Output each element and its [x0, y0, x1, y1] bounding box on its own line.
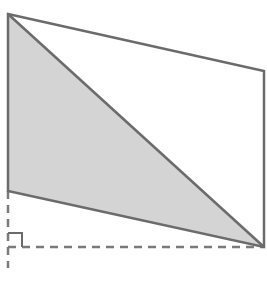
geometry-diagram	[0, 0, 267, 285]
right-angle-marker	[8, 233, 22, 247]
